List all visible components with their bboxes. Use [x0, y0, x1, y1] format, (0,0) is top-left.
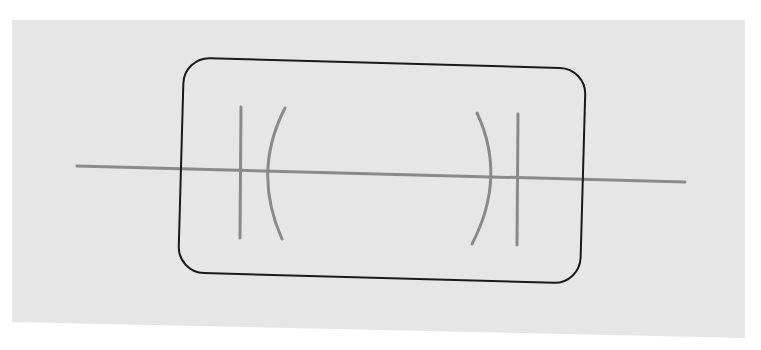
paper-background	[12, 20, 745, 338]
capacitor-right-flat-plate	[517, 114, 518, 245]
capacitor-schematic	[0, 0, 761, 350]
diagram-stage	[0, 0, 761, 350]
capacitor-left-flat-plate	[240, 107, 241, 238]
